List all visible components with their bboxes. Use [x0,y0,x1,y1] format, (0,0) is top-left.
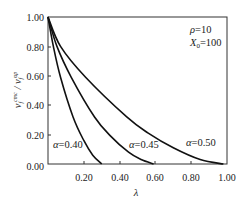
rho-annotation: ρ=10 [189,24,211,35]
y-tick-label: 0.40 [27,100,45,111]
x-tick-label: 1.00 [218,172,236,183]
x-tick-label: 0.40 [111,172,129,183]
x0-annotation: X0=100 [189,37,222,50]
y-tick-label: 0.00 [27,161,45,172]
x-axis-label: λ [133,187,139,198]
x-tick-label: 0.20 [75,172,93,183]
y-tick-label: 0.20 [27,130,45,141]
y-tick-label: 0.60 [27,71,45,82]
x-tick-label: 0.60 [146,172,164,183]
curve-label-alpha-0.40: α=0.40 [53,139,83,150]
y-axis-label: vfcmc / vfup [12,72,24,109]
y-tick-label: 1.00 [27,12,45,23]
x-tick-label: 0.80 [182,172,200,183]
chart: 1.00 0.80 0.60 0.40 0.20 0.00 0.20 0.40 … [0,0,244,203]
curve-label-alpha-0.50: α=0.50 [186,137,216,148]
y-tick-label: 0.80 [27,42,45,53]
curve-label-alpha-0.45: α=0.45 [129,139,159,150]
